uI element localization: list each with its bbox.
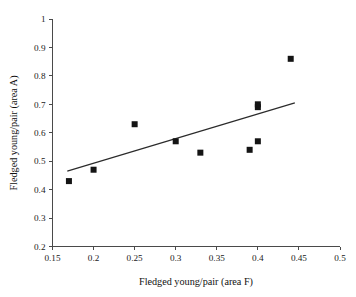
y-tick-label: 0.3	[34, 213, 46, 223]
x-tick-label: 0.45	[291, 253, 307, 263]
data-point	[91, 167, 97, 173]
data-point	[173, 138, 179, 144]
y-tick-label: 0.4	[34, 185, 46, 195]
y-tick-label: 0.2	[34, 242, 46, 252]
x-tick-label: 0.5	[334, 253, 346, 263]
x-tick-label: 0.3	[170, 253, 182, 263]
y-tick-label: 0.8	[34, 71, 46, 81]
x-tick-label: 0.2	[88, 253, 100, 263]
chart-figure: 0.20.30.40.50.60.70.80.91 0.150.20.250.3…	[0, 0, 356, 297]
y-tick-label: 0.7	[34, 100, 46, 110]
x-axis-title: Fledged young/pair (area F)	[139, 276, 253, 288]
data-point-markers	[66, 56, 294, 184]
y-tick-label: 0.5	[34, 156, 46, 166]
data-point	[255, 138, 261, 144]
data-point	[255, 101, 261, 107]
x-axis-tick-labels: 0.150.20.250.30.350.40.450.5	[44, 253, 346, 263]
data-point	[288, 56, 294, 62]
y-tick-label: 1	[41, 14, 46, 24]
x-tick-label: 0.4	[252, 253, 264, 263]
x-tick-label: 0.25	[127, 253, 143, 263]
x-tick-label: 0.15	[44, 253, 60, 263]
x-tick-label: 0.35	[209, 253, 225, 263]
trend-line	[67, 103, 295, 171]
y-tick-label: 0.9	[34, 43, 46, 53]
y-axis-title: Fledged young/pair (area A)	[8, 75, 20, 190]
y-tick-label: 0.6	[34, 128, 46, 138]
data-point	[247, 147, 253, 153]
scatter-plot: 0.20.30.40.50.60.70.80.91 0.150.20.250.3…	[0, 0, 356, 297]
data-point	[132, 121, 138, 127]
data-point	[66, 178, 72, 184]
data-point	[197, 150, 203, 156]
y-axis-tick-labels: 0.20.30.40.50.60.70.80.91	[34, 14, 46, 252]
